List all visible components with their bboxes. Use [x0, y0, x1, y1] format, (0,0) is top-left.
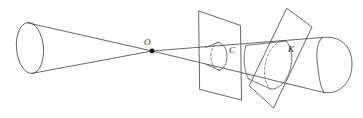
right-cone-nappe: [152, 37, 352, 93]
diagram-canvas: O C K: [0, 0, 363, 118]
section-k-tangent-lower: [249, 79, 271, 89]
section-label-k: K: [287, 44, 295, 54]
apex-label-o: O: [144, 37, 151, 47]
left-cone-nappe: [14, 21, 152, 74]
conic-sections-diagram: O C K: [0, 0, 363, 118]
apex-vertex-o: [150, 49, 155, 54]
left-cone-base-ellipse: [14, 21, 45, 74]
section-label-c: C: [229, 45, 236, 55]
vertical-plane-outline: [199, 11, 242, 100]
right-cone-lower-generator: [152, 51, 324, 93]
right-cone-base-near-arc: [317, 38, 324, 93]
section-c-front-arc: [219, 42, 228, 70]
tilted-plane-outline: [250, 9, 313, 109]
tilted-cutting-plane: [250, 9, 313, 109]
left-cone-lower-generator: [33, 51, 153, 73]
section-c-tangent-upper: [206, 42, 219, 47]
vertical-cutting-plane: [199, 11, 242, 100]
right-cone-upper-generator: [152, 38, 322, 52]
right-cone-base-ellipse-arc: [322, 37, 352, 93]
left-cone-upper-generator: [28, 23, 153, 51]
